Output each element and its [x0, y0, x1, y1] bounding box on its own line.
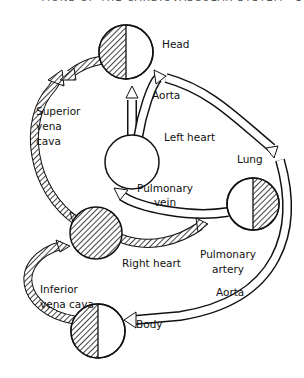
label-superior-vena-cava: Superior vena cava: [36, 104, 80, 149]
label-left-heart: Left heart: [164, 131, 215, 144]
label-pulmonary-artery: Pulmonary artery: [200, 247, 256, 277]
label-aorta-bottom: Aorta: [216, 286, 244, 299]
label-inferior-vena-cava: Inferior vena cava: [40, 282, 94, 312]
head-organ: [99, 25, 153, 79]
circulation-diagram: TIONS OF THE CARDIOVASCULAR SYSTEM 397: [0, 0, 304, 378]
body-organ: [71, 304, 125, 358]
right-heart-organ: [70, 207, 122, 259]
lung-organ: [227, 178, 279, 230]
pulmonary-artery-vessel: [120, 218, 208, 243]
label-pulmonary-vein: Pulmonary vein: [137, 181, 193, 209]
label-head: Head: [162, 38, 189, 51]
label-lung: Lung: [237, 153, 263, 166]
label-aorta-top: Aorta: [152, 89, 180, 102]
label-body: Body: [136, 318, 163, 331]
label-right-heart: Right heart: [122, 257, 181, 270]
